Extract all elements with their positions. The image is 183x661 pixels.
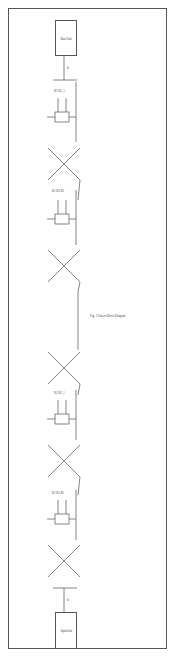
top-block-label: Base Unit bbox=[61, 36, 72, 41]
diagram-lines bbox=[0, 0, 183, 661]
stage-2-label: R1 R2 R3 bbox=[52, 188, 64, 193]
stage-3-label: R1 R2_1 bbox=[54, 390, 65, 395]
bottom-signal-label: b bbox=[67, 597, 69, 602]
figure-caption: Fig. 1 Pattern Block Diagram bbox=[90, 313, 125, 318]
stage-1-label: R1 R2_1 bbox=[54, 88, 65, 93]
top-block: Base Unit bbox=[55, 20, 77, 56]
top-signal-label: b bbox=[67, 65, 69, 70]
bottom-block-label: Input Unit bbox=[60, 628, 71, 633]
bottom-block: Input Unit bbox=[55, 612, 77, 649]
stage-4-label: R1 R2 R3 bbox=[52, 490, 64, 495]
